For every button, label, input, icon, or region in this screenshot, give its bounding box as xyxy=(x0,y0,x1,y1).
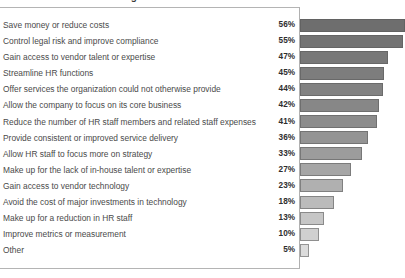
chart-row: Make up for the lack of in-house talent … xyxy=(0,163,405,179)
category-label: Streamline HR functions xyxy=(3,67,93,79)
bar-track xyxy=(300,67,384,81)
bar xyxy=(300,244,309,257)
chart-row: Avoid the cost of major investments in t… xyxy=(0,195,405,211)
category-label: Control legal risk and improve complianc… xyxy=(3,35,158,47)
bar xyxy=(300,115,377,128)
category-label: Improve metrics or measurement xyxy=(3,228,126,240)
value-label: 56% xyxy=(232,19,295,31)
category-label: Make up for the lack of in-house talent … xyxy=(3,164,191,176)
bar-track xyxy=(300,147,362,161)
bar-track xyxy=(300,179,343,193)
chart-row: Save money or reduce costs56% xyxy=(0,18,405,34)
chart-title: Reasons for HR Outsourcing xyxy=(2,0,137,3)
bar-track xyxy=(300,131,368,145)
bar-track xyxy=(300,99,379,113)
bar-track xyxy=(300,19,405,33)
bar xyxy=(300,147,362,160)
bar-track xyxy=(300,212,324,226)
category-label: Avoid the cost of major investments in t… xyxy=(3,196,187,208)
category-label: Other xyxy=(3,244,24,256)
bar-track xyxy=(300,83,383,97)
value-label: 5% xyxy=(232,244,295,256)
bar-track xyxy=(300,196,334,210)
plot-frame-top-rule xyxy=(0,7,300,8)
bar xyxy=(300,35,403,48)
value-label: 33% xyxy=(232,148,295,160)
chart-row: Make up for a reduction in HR staff13% xyxy=(0,211,405,227)
value-label: 45% xyxy=(232,67,295,79)
value-label: 41% xyxy=(232,116,295,128)
chart-row: Streamline HR functions45% xyxy=(0,66,405,82)
value-label: 47% xyxy=(232,51,295,63)
value-label: 36% xyxy=(232,132,295,144)
category-label: Reduce the number of HR staff members an… xyxy=(3,116,256,128)
chart-row: Offer services the organization could no… xyxy=(0,82,405,98)
bar-track xyxy=(300,228,319,242)
bar-track xyxy=(300,51,388,65)
category-label: Save money or reduce costs xyxy=(3,19,109,31)
bar-track xyxy=(300,163,351,177)
value-label: 10% xyxy=(232,228,295,240)
bar xyxy=(300,228,319,241)
bar xyxy=(300,19,405,32)
category-label: Provide consistent or improved service d… xyxy=(3,132,178,144)
bar xyxy=(300,163,351,176)
chart-row: Control legal risk and improve complianc… xyxy=(0,34,405,50)
bar xyxy=(300,99,379,112)
value-label: 44% xyxy=(232,83,295,95)
bar-track xyxy=(300,35,403,49)
bar xyxy=(300,83,383,96)
category-label: Gain access to vendor talent or expertis… xyxy=(3,51,155,63)
bar xyxy=(300,131,368,144)
chart-row: Allow the company to focus on its core b… xyxy=(0,98,405,114)
chart-row: Allow HR staff to focus more on strategy… xyxy=(0,147,405,163)
clipped-title-fragment: Reasons for HR Outsourcing xyxy=(0,0,405,4)
chart-row: Reduce the number of HR staff members an… xyxy=(0,115,405,131)
bar-chart-rows: Save money or reduce costs56%Control leg… xyxy=(0,18,405,259)
category-label: Offer services the organization could no… xyxy=(3,83,221,95)
category-label: Allow HR staff to focus more on strategy xyxy=(3,148,152,160)
chart-row: Provide consistent or improved service d… xyxy=(0,131,405,147)
bar xyxy=(300,67,384,80)
value-label: 55% xyxy=(232,35,295,47)
value-label: 18% xyxy=(232,196,295,208)
value-label: 23% xyxy=(232,180,295,192)
bar xyxy=(300,196,334,209)
plot-frame-bottom-rule xyxy=(0,268,300,269)
value-label: 13% xyxy=(232,212,295,224)
bar xyxy=(300,212,324,225)
chart-row: Improve metrics or measurement10% xyxy=(0,227,405,243)
value-label: 42% xyxy=(232,99,295,111)
bar-track xyxy=(300,115,377,129)
value-label: 27% xyxy=(232,164,295,176)
chart-row: Gain access to vendor talent or expertis… xyxy=(0,50,405,66)
bar xyxy=(300,179,343,192)
bar xyxy=(300,51,388,64)
category-label: Allow the company to focus on its core b… xyxy=(3,99,181,111)
chart-row: Gain access to vendor technology23% xyxy=(0,179,405,195)
bar-track xyxy=(300,244,309,258)
category-label: Gain access to vendor technology xyxy=(3,180,129,192)
chart-row: Other5% xyxy=(0,243,405,259)
category-label: Make up for a reduction in HR staff xyxy=(3,212,132,224)
